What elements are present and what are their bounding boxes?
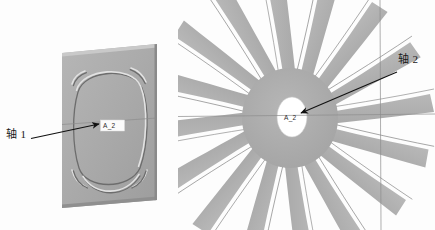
left-center-annotation: A_2 [101, 120, 125, 131]
plate-right-edge [155, 44, 158, 200]
left-annotation-text: A_2 [103, 122, 116, 130]
right-annotation-text: A_2 [284, 114, 297, 122]
figure-canvas: A_2 轴 1 [0, 0, 435, 230]
engineering-figure-svg: A_2 轴 1 [0, 0, 435, 230]
left-plate-view: A_2 轴 1 [6, 44, 157, 208]
right-blade-view: A_2 [146, 0, 435, 230]
left-callout-label: 轴 1 [6, 127, 26, 140]
right-callout-label: 轴 2 [398, 52, 418, 65]
